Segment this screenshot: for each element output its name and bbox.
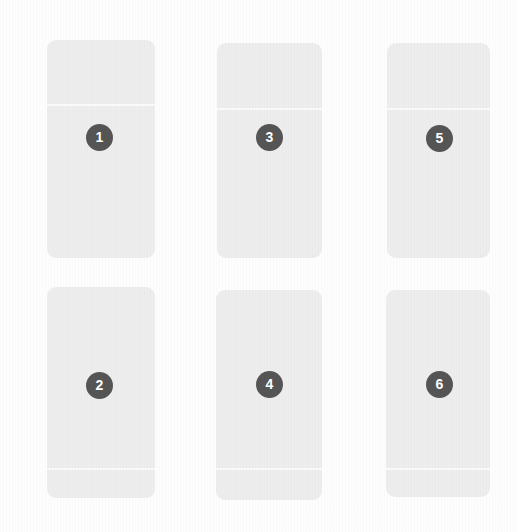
panel-divider-rule (47, 104, 155, 106)
panel-divider-rule (386, 468, 490, 470)
panel-number-badge[interactable]: 5 (426, 125, 453, 152)
panel-divider-rule (47, 468, 155, 470)
panel-number-badge[interactable]: 6 (426, 371, 453, 398)
panel-number-badge[interactable]: 3 (256, 124, 283, 151)
panel-divider-rule (216, 468, 322, 470)
panel-number-badge[interactable]: 4 (256, 371, 283, 398)
panel-divider-rule (387, 108, 490, 110)
panel-number-badge[interactable]: 2 (86, 372, 113, 399)
panel-grid-canvas: 1 2 3 4 5 6 (0, 0, 517, 532)
panel-divider-rule (217, 108, 322, 110)
panel-number-badge[interactable]: 1 (86, 124, 113, 151)
